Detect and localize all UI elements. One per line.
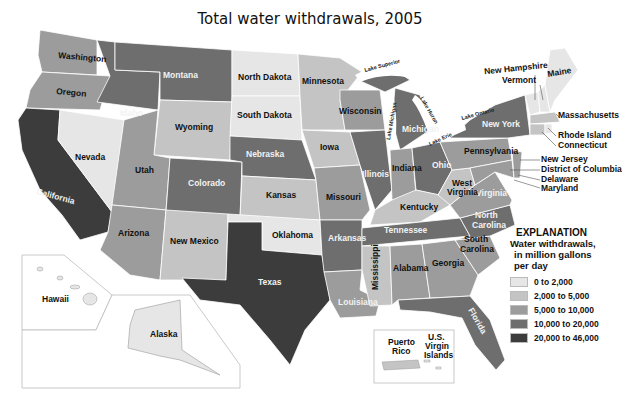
legend-label: 2,000 to 5,000 xyxy=(534,291,589,301)
label-georgia: Georgia xyxy=(432,258,464,268)
legend: EXPLANATION Water withdrawals, in millio… xyxy=(510,227,620,344)
legend-label: 10,000 to 20,000 xyxy=(534,319,599,329)
legend-subheading-1: Water withdrawals, xyxy=(510,238,620,249)
state-connecticut xyxy=(530,124,545,135)
label-south-carolina-1: South xyxy=(464,234,488,244)
label-tennessee: Tennessee xyxy=(384,225,428,235)
label-montana: Montana xyxy=(163,70,198,80)
label-wyoming: Wyoming xyxy=(175,122,213,132)
label-north-carolina-2: Carolina xyxy=(472,220,506,230)
legend-swatch xyxy=(510,291,528,301)
label-pennsylvania: Pennsylvania xyxy=(464,146,519,156)
label-new-york: New York xyxy=(482,119,520,129)
label-utah: Utah xyxy=(135,165,154,175)
label-puerto-rico-2: Rico xyxy=(392,346,410,356)
label-west-virginia-2: Virginia xyxy=(447,187,478,197)
label-mississippi: Mississippi xyxy=(370,244,380,290)
label-oklahoma: Oklahoma xyxy=(272,230,313,240)
label-nebraska: Nebraska xyxy=(246,149,285,159)
legend-swatch xyxy=(510,277,528,287)
legend-subheading-2: in million gallons xyxy=(514,249,620,260)
legend-item: 10,000 to 20,000 xyxy=(510,317,620,330)
label-kentucky: Kentucky xyxy=(400,202,439,212)
label-arizona: Arizona xyxy=(118,228,149,238)
legend-label: 0 to 2,000 xyxy=(534,277,573,287)
label-louisiana: Louisiana xyxy=(338,297,378,307)
label-idaho: Idaho xyxy=(120,108,143,118)
legend-label: 20,000 to 46,000 xyxy=(534,333,599,343)
callout-rhode-island: Rhode Island xyxy=(558,130,611,140)
label-illinois: Illinois xyxy=(362,169,389,179)
label-hawaii: Hawaii xyxy=(42,294,69,304)
label-virginia: Virginia xyxy=(476,188,507,198)
callout-massachusetts: Massachusetts xyxy=(558,110,619,120)
label-wisconsin: Wisconsin xyxy=(339,106,381,116)
label-usvi-3: Islands xyxy=(424,350,454,360)
label-south-carolina-2: Carolina xyxy=(460,244,494,254)
label-michigan: Michigan xyxy=(402,124,439,134)
legend-heading: EXPLANATION xyxy=(516,227,620,238)
legend-item: 2,000 to 5,000 xyxy=(510,289,620,302)
label-missouri: Missouri xyxy=(326,192,361,202)
label-nevada: Nevada xyxy=(75,152,106,162)
state-rhode-island xyxy=(545,124,552,134)
label-indiana: Indiana xyxy=(392,163,422,173)
label-new-mexico: New Mexico xyxy=(170,236,219,246)
label-alabama: Alabama xyxy=(393,263,429,273)
legend-item: 5,000 to 10,000 xyxy=(510,303,620,316)
label-ohio: Ohio xyxy=(432,160,451,170)
label-north-dakota: North Dakota xyxy=(238,72,292,82)
label-texas: Texas xyxy=(258,277,282,287)
label-kansas: Kansas xyxy=(266,190,297,200)
legend-subheading-3: per day xyxy=(514,260,620,271)
state-colorado xyxy=(166,158,242,218)
legend-swatch xyxy=(510,319,528,329)
label-iowa: Iowa xyxy=(320,142,339,152)
label-arkansas: Arkansas xyxy=(328,233,367,243)
legend-label: 5,000 to 10,000 xyxy=(534,305,594,315)
callout-vermont: Vermont xyxy=(502,75,536,85)
callout-maryland: Maryland xyxy=(541,183,578,193)
label-south-dakota: South Dakota xyxy=(237,110,292,120)
legend-item: 20,000 to 46,000 xyxy=(510,331,620,344)
state-arkansas xyxy=(320,220,362,272)
label-colorado: Colorado xyxy=(188,178,225,188)
label-minnesota: Minnesota xyxy=(302,76,344,86)
label-alaska: Alaska xyxy=(150,329,178,339)
legend-swatch xyxy=(510,305,528,315)
legend-item: 0 to 2,000 xyxy=(510,275,620,288)
legend-swatch xyxy=(510,333,528,343)
territory-puerto-rico xyxy=(382,360,420,370)
inset-hawaii-frame xyxy=(22,255,112,330)
callout-dc: District of Columbia xyxy=(541,164,622,174)
callout-new-jersey: New Jersey xyxy=(541,154,588,164)
callout-connecticut: Connecticut xyxy=(558,140,607,150)
state-maine xyxy=(545,48,578,112)
label-north-carolina-1: North xyxy=(475,210,498,220)
